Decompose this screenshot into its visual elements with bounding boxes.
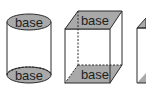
cylinder-bottom-label: base [15, 68, 43, 83]
partial-prism-top-base [137, 18, 146, 28]
partial-prism-bottom-base [137, 73, 146, 83]
solids-diagram: base base base base [0, 0, 146, 91]
cylinder: base base [7, 14, 51, 83]
partial-prism [137, 18, 146, 83]
prism-top-label: base [81, 13, 109, 28]
rectangular-prism: base base [65, 11, 122, 83]
prism-bottom-label: base [81, 67, 109, 82]
cylinder-top-label: base [15, 15, 43, 30]
